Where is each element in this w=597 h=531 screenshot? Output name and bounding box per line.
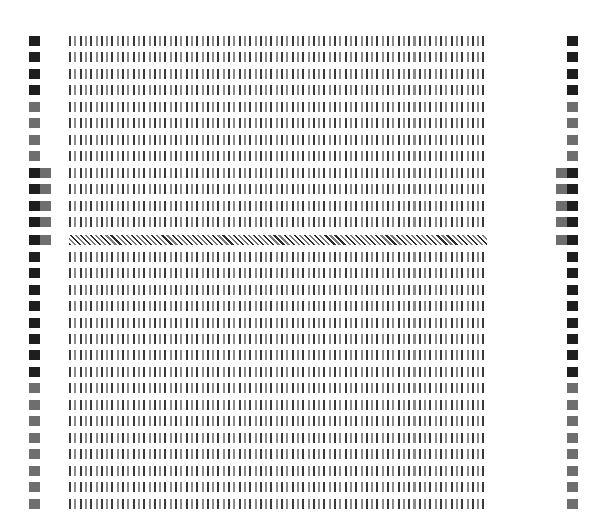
left-marker-dark <box>29 301 40 311</box>
left-marker-dark <box>29 285 40 295</box>
pattern-row <box>0 102 597 113</box>
right-marker-gray <box>556 217 567 227</box>
pattern-row <box>0 69 597 80</box>
right-marker-gray <box>567 135 578 145</box>
striped-band <box>69 252 487 262</box>
pattern-row <box>0 184 597 195</box>
right-marker-gray <box>567 383 578 393</box>
right-marker-dark <box>567 168 578 178</box>
right-marker-gray <box>567 151 578 161</box>
striped-band <box>69 36 487 46</box>
left-marker-dark <box>29 268 40 278</box>
left-marker-gray <box>40 184 51 194</box>
left-marker-gray <box>29 433 40 443</box>
striped-band <box>69 433 487 443</box>
right-marker-dark <box>567 217 578 227</box>
pattern-row <box>0 201 597 212</box>
striped-band <box>69 201 487 211</box>
right-marker-dark <box>567 334 578 344</box>
striped-band <box>69 69 487 79</box>
right-marker-dark <box>567 285 578 295</box>
pattern-row <box>0 85 597 96</box>
striped-band <box>69 184 487 194</box>
right-marker-dark <box>567 235 578 245</box>
pattern-row <box>0 482 597 493</box>
left-marker-gray <box>40 217 51 227</box>
left-marker-dark <box>29 201 40 211</box>
pattern-row <box>0 135 597 146</box>
pattern-row <box>0 285 597 296</box>
right-marker-gray <box>567 102 578 112</box>
left-marker-gray <box>29 118 40 128</box>
left-marker-dark <box>29 85 40 95</box>
pattern-row <box>0 151 597 162</box>
left-marker-gray <box>29 482 40 492</box>
striped-band <box>69 367 487 377</box>
left-marker-dark <box>29 334 40 344</box>
left-marker-gray <box>29 135 40 145</box>
left-marker-gray <box>29 466 40 476</box>
right-marker-dark <box>567 350 578 360</box>
right-marker-dark <box>567 52 578 62</box>
striped-band <box>69 334 487 344</box>
right-marker-gray <box>556 201 567 211</box>
left-marker-dark <box>29 217 40 227</box>
striped-band <box>69 449 487 459</box>
striped-band <box>69 118 487 128</box>
striped-band <box>69 301 487 311</box>
left-marker-gray <box>29 151 40 161</box>
pattern-row <box>0 301 597 312</box>
left-marker-gray <box>29 499 40 509</box>
right-marker-dark <box>567 252 578 262</box>
left-marker-gray <box>40 235 51 245</box>
striped-band <box>69 350 487 360</box>
striped-band <box>69 285 487 295</box>
pattern-row <box>0 449 597 460</box>
pattern-row <box>0 268 597 279</box>
striped-band <box>69 52 487 62</box>
left-marker-dark <box>29 252 40 262</box>
striped-band <box>69 482 487 492</box>
pattern-row <box>0 433 597 444</box>
left-marker-gray <box>29 449 40 459</box>
right-marker-dark <box>567 318 578 328</box>
pattern-row <box>0 400 597 411</box>
pattern-row <box>0 36 597 47</box>
pattern-row <box>0 367 597 378</box>
left-marker-dark <box>29 36 40 46</box>
pattern-row <box>0 350 597 361</box>
right-marker-gray <box>556 184 567 194</box>
striped-band <box>69 466 487 476</box>
right-marker-dark <box>567 301 578 311</box>
left-marker-dark <box>29 235 40 245</box>
striped-band <box>69 102 487 112</box>
striped-band <box>69 151 487 161</box>
right-marker-gray <box>567 482 578 492</box>
pattern-row <box>0 168 597 179</box>
striped-band <box>69 168 487 178</box>
right-marker-dark <box>567 36 578 46</box>
left-marker-dark <box>29 184 40 194</box>
left-marker-dark <box>29 318 40 328</box>
left-marker-gray <box>29 416 40 426</box>
pattern-row <box>0 118 597 129</box>
left-marker-dark <box>29 350 40 360</box>
left-marker-dark <box>29 367 40 377</box>
pattern-row <box>0 217 597 228</box>
left-marker-gray <box>40 201 51 211</box>
pattern-row <box>0 318 597 329</box>
left-marker-gray <box>29 400 40 410</box>
hatched-band <box>69 235 487 245</box>
pattern-row <box>0 52 597 63</box>
striped-band <box>69 400 487 410</box>
right-marker-gray <box>556 235 567 245</box>
right-marker-gray <box>556 168 567 178</box>
striped-band <box>69 318 487 328</box>
striped-band <box>69 135 487 145</box>
striped-band <box>69 217 487 227</box>
right-marker-dark <box>567 69 578 79</box>
pattern-row <box>0 416 597 427</box>
striped-band <box>69 499 487 509</box>
right-marker-gray <box>567 449 578 459</box>
left-marker-gray <box>29 102 40 112</box>
